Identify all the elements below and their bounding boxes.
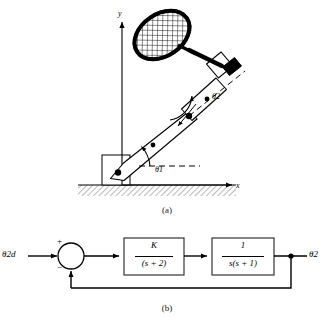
figure-root: y x θ1 θ2 (a) xyxy=(0,0,334,323)
panel-b-drawing xyxy=(0,0,334,323)
plant-numerator: 1 xyxy=(212,240,274,250)
summing-plus-sign: + xyxy=(57,236,62,246)
input-label: θ2d xyxy=(2,249,15,259)
caption-b: (b) xyxy=(147,303,187,313)
plant-denominator: s(s + 1) xyxy=(212,258,274,268)
controller-numerator: K xyxy=(124,240,184,250)
output-label: θ2 xyxy=(309,249,318,259)
summing-minus-sign: − xyxy=(57,262,62,272)
controller-denominator: (s + 2) xyxy=(124,258,184,268)
